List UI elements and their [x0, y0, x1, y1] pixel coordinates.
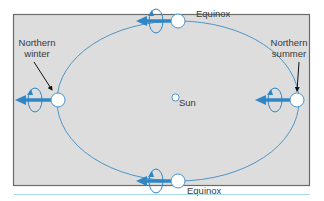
planet-icon	[290, 93, 304, 107]
earth-orbit-seasons-diagram: Sun Equinox Equinox Northern winter	[0, 0, 324, 201]
sun-label: Sun	[179, 97, 196, 108]
planet-icon	[171, 14, 185, 28]
northern-summer-label-line2: summer	[272, 48, 306, 59]
rotation-arrowhead-icon	[148, 10, 154, 16]
northern-summer-label-line1: Northern	[271, 37, 308, 48]
northern-winter-label-line2: winter	[23, 48, 49, 59]
planet-icon	[171, 174, 185, 188]
equinox-top-label: Equinox	[196, 8, 231, 19]
planet-icon	[51, 93, 65, 107]
northern-winter-label-line1: Northern	[19, 37, 56, 48]
